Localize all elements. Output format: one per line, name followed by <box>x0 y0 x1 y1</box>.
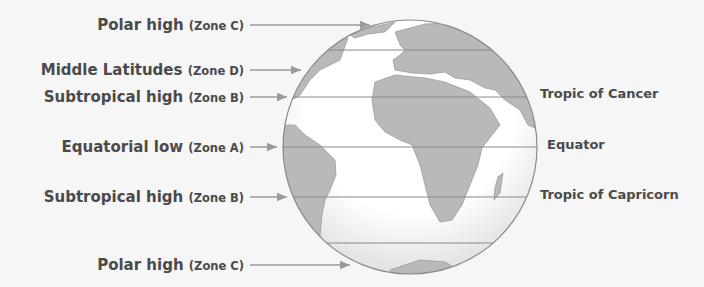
label-subtropical-high-south: Subtropical high (Zone B) <box>0 188 244 206</box>
label-equatorial-low: Equatorial low (Zone A) <box>0 138 244 156</box>
globe <box>283 20 540 278</box>
label-polar-high-north: Polar high (Zone C) <box>0 16 244 34</box>
label-middle-latitudes: Middle Latitudes (Zone D) <box>0 61 244 79</box>
label-subtropical-high-north: Subtropical high (Zone B) <box>0 88 244 106</box>
label-tropic-of-capricorn: Tropic of Capricorn <box>540 187 679 202</box>
label-tropic-of-cancer: Tropic of Cancer <box>540 86 658 101</box>
label-polar-high-south: Polar high (Zone C) <box>0 256 244 274</box>
label-equator: Equator <box>547 137 605 152</box>
